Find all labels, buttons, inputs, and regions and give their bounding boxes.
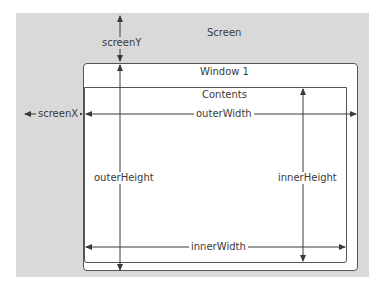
innerWidth-label: innerWidth xyxy=(189,241,248,253)
innerHeight-label: innerHeight xyxy=(276,172,339,184)
outerWidth-label: outerWidth xyxy=(194,108,254,120)
screenY-label: screenY xyxy=(100,37,143,49)
outerHeight-label: outerHeight xyxy=(92,172,156,184)
screenX-label: screenX xyxy=(36,108,80,120)
